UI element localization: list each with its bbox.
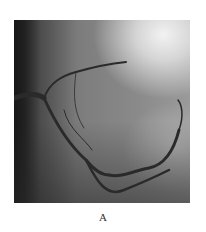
angiogram-image [14, 20, 190, 203]
panel-label: A [0, 211, 206, 223]
vessel-overlay [14, 20, 190, 203]
